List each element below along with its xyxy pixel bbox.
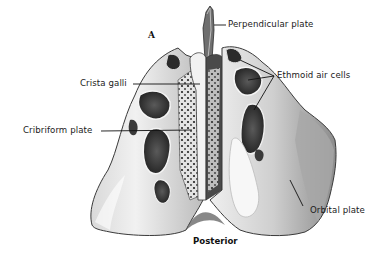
left-lateral-mass bbox=[91, 48, 203, 236]
label-perpendicular-plate: Perpendicular plate bbox=[228, 20, 313, 29]
label-crista-galli: Crista galli bbox=[80, 79, 127, 88]
perpendicular-plate-shape bbox=[203, 6, 214, 60]
label-orbital-plate: Orbital plate bbox=[310, 206, 365, 215]
panel-letter: A bbox=[148, 30, 155, 40]
diagram-stage: A Perpendicular plate Crista galli Cribr… bbox=[0, 0, 392, 258]
orientation-caption: Posterior bbox=[193, 236, 238, 246]
label-ethmoid-air-cells: Ethmoid air cells bbox=[277, 71, 350, 80]
label-cribriform-plate: Cribriform plate bbox=[23, 126, 92, 135]
